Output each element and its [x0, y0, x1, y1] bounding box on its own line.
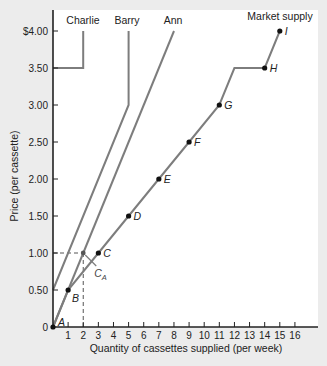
point-D [126, 213, 131, 218]
y-tick-label: 1.50 [29, 211, 49, 222]
point-H [262, 65, 267, 70]
x-tick-label: 13 [244, 330, 256, 341]
supply-chart: 12345678910111213141516 00.501.001.502.0… [0, 0, 327, 366]
x-tick-label: 4 [111, 330, 117, 341]
x-tick-label: 5 [126, 330, 132, 341]
point-label-F: F [194, 136, 201, 148]
x-tick-label: 7 [156, 330, 162, 341]
point-label-E: E [164, 173, 172, 185]
x-tick-label: 16 [289, 330, 301, 341]
x-tick-label: 2 [80, 330, 86, 341]
x-tick-label: 14 [259, 330, 271, 341]
series-label-barry: Barry [114, 14, 140, 26]
series-label-market-supply: Market supply [247, 10, 313, 22]
point-label-A: A [57, 316, 65, 328]
y-tick-label: $4.00 [23, 26, 48, 37]
point-A [50, 324, 55, 329]
x-tick-label: 9 [186, 330, 192, 341]
y-tick-label: 1.00 [29, 248, 49, 259]
point-label-B: B [72, 292, 79, 304]
y-tick-label: 2.50 [29, 137, 49, 148]
x-axis-label: Quantity of cassettes supplied (per week… [90, 342, 283, 354]
y-tick-label: 3.00 [29, 100, 49, 111]
x-tick-label: 6 [141, 330, 147, 341]
point-label-H: H [270, 62, 278, 74]
y-tick-label: 0.50 [29, 285, 49, 296]
point-I [277, 28, 282, 33]
x-tick-label: 3 [96, 330, 102, 341]
point-E [156, 176, 161, 181]
series-label-ann: Ann [164, 14, 183, 26]
point-label-C: C [103, 247, 111, 259]
x-tick-label: 12 [229, 330, 241, 341]
plot-area [53, 10, 318, 327]
point-C [96, 250, 101, 255]
y-tick-label: 0 [42, 322, 48, 333]
y-axis-label: Price (per cassette) [8, 130, 20, 221]
y-tick-label: 2.00 [29, 174, 49, 185]
point-B [66, 287, 71, 292]
point-G [217, 102, 222, 107]
point-label-D: D [134, 210, 142, 222]
series-label-charlie: Charlie [66, 14, 99, 26]
point-F [186, 139, 191, 144]
x-tick-label: 8 [171, 330, 177, 341]
point-label-I: I [285, 25, 288, 37]
x-tick-label: 10 [199, 330, 211, 341]
x-tick-label: 15 [274, 330, 286, 341]
x-tick-label: 1 [65, 330, 71, 341]
y-tick-label: 3.50 [29, 63, 49, 74]
point-label-G: G [224, 99, 232, 111]
x-tick-label: 11 [214, 330, 225, 341]
point-ca [81, 251, 86, 256]
